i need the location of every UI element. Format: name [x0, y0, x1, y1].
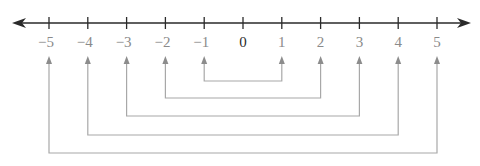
pair-connector-2: [162, 56, 323, 98]
tick-label: 0: [239, 34, 247, 50]
connector-line: [88, 63, 398, 135]
tick-label: −5: [38, 34, 54, 50]
tick-label: −1: [193, 34, 209, 50]
tick-label: −2: [154, 34, 170, 50]
pair-connector-1: [201, 56, 285, 81]
connector-line: [127, 63, 360, 116]
up-arrow-icon: [201, 56, 207, 64]
tick-label: −3: [116, 34, 132, 50]
pair-connector-3: [124, 56, 363, 116]
up-arrow-icon: [162, 56, 168, 64]
connector-line: [49, 63, 437, 153]
opposite-pair-connectors: [46, 56, 440, 153]
tick-label: 4: [394, 34, 402, 50]
tick-label: 1: [278, 34, 286, 50]
up-arrow-icon: [434, 56, 440, 64]
up-arrow-icon: [395, 56, 401, 64]
tick-label: −4: [77, 34, 93, 50]
pair-connector-4: [85, 56, 401, 135]
up-arrow-icon: [124, 56, 130, 64]
tick-label: 5: [433, 34, 441, 50]
up-arrow-icon: [356, 56, 362, 64]
up-arrow-icon: [279, 56, 285, 64]
connector-line: [204, 63, 282, 81]
number-line-axis: [12, 18, 471, 28]
up-arrow-icon: [85, 56, 91, 64]
tick-label: 2: [317, 34, 325, 50]
tick-labels: −5−4−3−2−1012345: [38, 34, 441, 50]
up-arrow-icon: [46, 56, 52, 64]
up-arrow-icon: [318, 56, 324, 64]
pair-connector-5: [46, 56, 440, 153]
number-line-diagram: −5−4−3−2−1012345: [0, 0, 480, 166]
tick-label: 3: [356, 34, 364, 50]
